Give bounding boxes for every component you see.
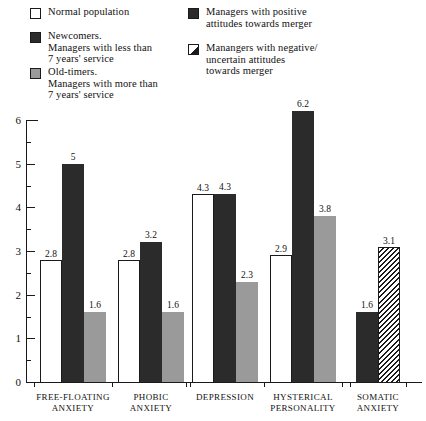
x-tick [350, 383, 351, 387]
bar-value-label: 3.2 [145, 230, 157, 240]
bar-value-label: 2.8 [123, 249, 135, 259]
y-tick-major [27, 120, 35, 121]
y-tick-minor [27, 273, 31, 274]
legend-label: Newcomers. Managers with less than 7 yea… [48, 30, 152, 65]
x-tick [406, 383, 407, 387]
x-axis-line [26, 382, 422, 383]
bar[interactable]: 2.8 [40, 260, 62, 382]
bar-value-label: 1.6 [361, 300, 373, 310]
bar[interactable]: 3.1 [378, 247, 400, 382]
y-tick-minor [27, 360, 31, 361]
dark-square-icon [30, 32, 41, 43]
bar[interactable]: 2.3 [236, 282, 258, 382]
y-tick-minor [27, 186, 31, 187]
chart-legend: Normal populationNewcomers. Managers wit… [0, 0, 426, 110]
x-tick [34, 383, 35, 387]
bar-value-label: 2.3 [241, 270, 253, 280]
bar[interactable]: 5 [62, 164, 84, 382]
y-tick-major [27, 338, 35, 339]
x-tick [264, 383, 265, 387]
x-tick [186, 383, 187, 387]
y-tick-major [27, 164, 35, 165]
y-tick-label: 5 [1, 158, 21, 169]
bar-value-label: 1.6 [167, 300, 179, 310]
legend-label: Manangers with negative/ uncertain attit… [206, 42, 317, 77]
white-square-icon [30, 8, 41, 19]
bar[interactable]: 2.8 [118, 260, 140, 382]
bar[interactable]: 1.6 [162, 312, 184, 382]
bar-value-label: 2.9 [275, 244, 287, 254]
bar-value-label: 5 [71, 152, 76, 162]
y-tick-major [27, 207, 35, 208]
legend-label: Normal population [48, 6, 129, 18]
gray-square-icon [30, 68, 41, 79]
bar-chart: 0123456 2.851.62.83.21.64.34.32.32.96.23… [0, 110, 426, 421]
x-tick [342, 383, 343, 387]
plot-area: 0123456 2.851.62.83.21.64.34.32.32.96.23… [26, 120, 422, 382]
y-tick-label: 6 [1, 115, 21, 126]
y-tick-minor [27, 317, 31, 318]
bar-value-label: 4.3 [219, 182, 231, 192]
y-tick-major [27, 295, 35, 296]
legend-entry: Managers with positive attitudes towards… [188, 6, 312, 29]
y-tick-minor [27, 142, 31, 143]
bar[interactable]: 3.8 [314, 216, 336, 382]
y-tick-label: 2 [1, 289, 21, 300]
bar[interactable]: 1.6 [84, 312, 106, 382]
bar[interactable]: 4.3 [214, 194, 236, 382]
y-tick-minor [27, 229, 31, 230]
bar[interactable]: 4.3 [192, 194, 214, 382]
dark-square-icon [188, 8, 199, 19]
y-tick-label: 0 [1, 377, 21, 388]
bar[interactable]: 3.2 [140, 242, 162, 382]
y-tick-label: 1 [1, 333, 21, 344]
bar[interactable]: 2.9 [270, 255, 292, 382]
y-tick-label: 3 [1, 246, 21, 257]
x-tick [112, 383, 113, 387]
legend-entry: Newcomers. Managers with less than 7 yea… [30, 30, 152, 65]
y-tick-label: 4 [1, 202, 21, 213]
category-label: SOMATIC ANXIETY [323, 392, 426, 413]
bar-value-label: 4.3 [197, 183, 209, 193]
bar-value-label: 3.1 [383, 236, 395, 246]
bar-value-label: 3.8 [319, 204, 331, 214]
bar[interactable]: 1.6 [356, 312, 378, 382]
bar-value-label: 1.6 [89, 300, 101, 310]
legend-entry: Manangers with negative/ uncertain attit… [188, 42, 317, 77]
bar[interactable]: 6.2 [292, 111, 314, 382]
legend-entry: Old-timers. Managers with more than 7 ye… [30, 66, 158, 101]
y-tick-major [27, 251, 35, 252]
bar-value-label: 2.8 [45, 249, 57, 259]
x-tick [190, 383, 191, 387]
hatched-square-icon [188, 44, 199, 55]
legend-entry: Normal population [30, 6, 129, 19]
legend-label: Old-timers. Managers with more than 7 ye… [48, 66, 158, 101]
bar-value-label: 6.2 [297, 99, 309, 109]
legend-label: Managers with positive attitudes towards… [206, 6, 312, 29]
